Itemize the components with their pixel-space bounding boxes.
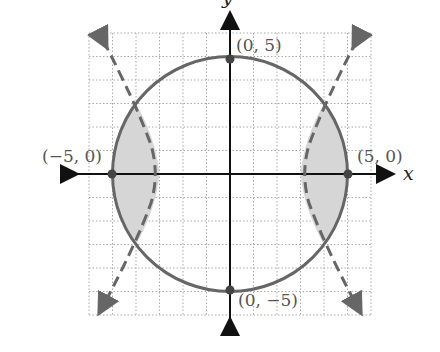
x-axis-label: x [403,162,414,184]
point-top [226,55,235,64]
y-axis-label: y [221,0,233,8]
point-bottom [226,286,235,295]
label-top: (0, 5) [236,35,282,55]
label-left: (−5, 0) [42,146,102,166]
point-right [344,170,353,179]
label-bottom: (0, −5) [238,290,298,310]
label-right: (5, 0) [357,146,403,166]
point-left [108,170,117,179]
graph: (0, 5) (−5, 0) (5, 0) (0, −5) x y [0,0,440,352]
